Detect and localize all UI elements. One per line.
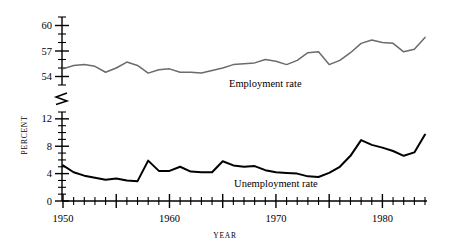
y-axis-lower-tick-label: 0: [47, 196, 52, 207]
series-label-unemployment-rate: Unemployment rate: [234, 178, 318, 189]
y-axis-upper-tick-label: 54: [42, 71, 53, 82]
line-chart: 04812545760 1950196019701980 Employment …: [0, 0, 450, 247]
x-axis-tick-label: 1950: [53, 213, 74, 224]
y-axis-title: PERCENT: [20, 116, 29, 155]
chart-container: 04812545760 1950196019701980 Employment …: [0, 0, 450, 247]
x-axis-tick-label: 1980: [372, 213, 393, 224]
x-axis-title: YEAR: [213, 231, 237, 240]
x-axis-tick-label: 1970: [265, 213, 286, 224]
y-axis-lower-tick-label: 8: [47, 141, 52, 152]
y-axis-upper-tick-label: 60: [42, 20, 53, 31]
y-axis-lower-tick-label: 4: [47, 168, 53, 179]
chart-background: [0, 0, 450, 247]
x-axis-tick-label: 1960: [159, 213, 180, 224]
y-axis-lower-tick-label: 12: [42, 113, 53, 124]
y-axis-upper-tick-label: 57: [42, 46, 53, 57]
series-label-employment-rate: Employment rate: [229, 78, 302, 89]
